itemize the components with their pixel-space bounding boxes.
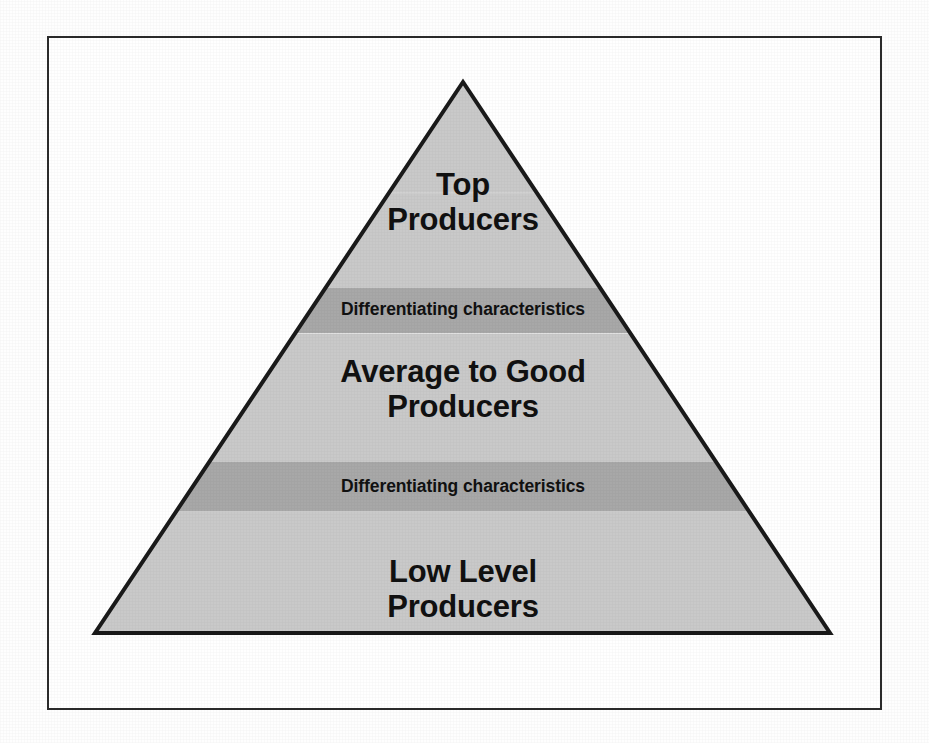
pyramid-body	[95, 82, 830, 633]
diagram-canvas: Top Producers Differentiating characteri…	[0, 0, 929, 743]
pyramid-graphic	[0, 0, 929, 743]
divider-band-upper	[80, 288, 850, 333]
pyramid-stage	[0, 0, 929, 743]
